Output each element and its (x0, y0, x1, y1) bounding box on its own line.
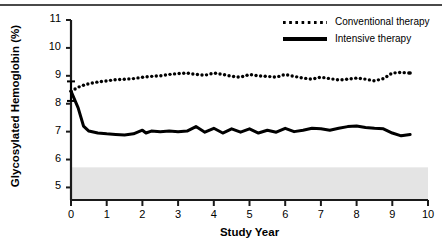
series-dot-conventional-therapy (254, 74, 257, 77)
series-dot-conventional-therapy (136, 76, 139, 79)
normal-range-band (71, 167, 428, 200)
series-dot-conventional-therapy (273, 75, 276, 78)
x-tick-label: 1 (97, 208, 117, 220)
series-dot-conventional-therapy (191, 72, 194, 75)
series-dot-conventional-therapy (127, 77, 130, 80)
series-dot-conventional-therapy (141, 75, 144, 78)
series-dot-conventional-therapy (73, 87, 76, 90)
series-dot-conventional-therapy (236, 75, 239, 78)
series-dot-conventional-therapy (118, 78, 121, 81)
series-dot-conventional-therapy (331, 77, 334, 80)
x-tick-label: 5 (240, 208, 260, 220)
series-dot-conventional-therapy (173, 72, 176, 75)
series-dot-conventional-therapy (209, 72, 212, 75)
series-dot-conventional-therapy (318, 76, 321, 79)
series-dot-conventional-therapy (91, 81, 94, 84)
series-dot-conventional-therapy (104, 79, 107, 82)
series-dot-conventional-therapy (286, 73, 289, 76)
series-dot-conventional-therapy (227, 74, 230, 77)
series-dot-conventional-therapy (259, 74, 262, 77)
series-dot-conventional-therapy (205, 73, 208, 76)
series-dot-conventional-therapy (300, 76, 303, 79)
series-dot-conventional-therapy (196, 73, 199, 76)
series-dot-conventional-therapy (177, 72, 180, 75)
series-dot-conventional-therapy (113, 78, 116, 81)
x-tick-label: 8 (347, 208, 367, 220)
series-dot-conventional-therapy (304, 77, 307, 80)
x-tick-label: 3 (168, 208, 188, 220)
series-dot-conventional-therapy (363, 77, 366, 80)
series-dot-conventional-therapy (86, 82, 89, 85)
series-dot-conventional-therapy (290, 74, 293, 77)
series-dot-conventional-therapy (408, 71, 411, 74)
series-dot-conventional-therapy (132, 77, 135, 80)
x-tick-label: 7 (311, 208, 331, 220)
series-dot-conventional-therapy (218, 72, 221, 75)
series-dot-conventional-therapy (245, 73, 248, 76)
series-dot-conventional-therapy (345, 78, 348, 81)
series-dot-conventional-therapy (403, 71, 406, 74)
series-dot-conventional-therapy (282, 73, 285, 76)
series-dot-conventional-therapy (200, 73, 203, 76)
series-dot-conventional-therapy (187, 72, 190, 75)
series-dot-conventional-therapy (393, 71, 396, 74)
y-tick-label: 6 (39, 152, 61, 164)
series-dot-conventional-therapy (295, 75, 298, 78)
series-dot-conventional-therapy (82, 84, 85, 87)
series-dot-conventional-therapy (350, 77, 353, 80)
x-tick-label: 6 (275, 208, 295, 220)
x-tick-label: 10 (418, 208, 438, 220)
series-dot-conventional-therapy (309, 77, 312, 80)
series-dot-conventional-therapy (95, 80, 98, 83)
series-dot-conventional-therapy (100, 80, 103, 83)
y-tick-label: 9 (39, 68, 61, 80)
series-dot-conventional-therapy (164, 73, 167, 76)
series-dot-conventional-therapy (381, 77, 384, 80)
series-dot-conventional-therapy (182, 72, 185, 75)
series-dot-conventional-therapy (223, 73, 226, 76)
series-dot-conventional-therapy (277, 75, 280, 78)
y-tick-label: 10 (39, 40, 61, 52)
series-dot-conventional-therapy (250, 73, 253, 76)
x-tick-label: 2 (132, 208, 152, 220)
series-dot-conventional-therapy (168, 73, 171, 76)
x-tick-label: 4 (204, 208, 224, 220)
series-dot-conventional-therapy (327, 77, 330, 80)
series-line-intensive-therapy (71, 91, 410, 136)
series-dot-conventional-therapy (77, 85, 80, 88)
series-dot-conventional-therapy (322, 76, 325, 79)
series-dot-conventional-therapy (145, 75, 148, 78)
series-dot-conventional-therapy (385, 75, 388, 78)
series-dot-conventional-therapy (313, 77, 316, 80)
series-dot-conventional-therapy (150, 75, 153, 78)
y-tick-label: 11 (39, 12, 61, 24)
series-dot-conventional-therapy (241, 75, 244, 78)
series-dot-conventional-therapy (389, 72, 392, 75)
chart-figure: Glycosylated Hemoglobin (%) Study Year C… (0, 0, 442, 247)
x-tick-label: 0 (61, 208, 81, 220)
series-dot-conventional-therapy (372, 79, 375, 82)
series-dot-conventional-therapy (377, 78, 380, 81)
series-dot-conventional-therapy (159, 74, 162, 77)
x-tick-label: 9 (382, 208, 402, 220)
y-tick-label: 8 (39, 96, 61, 108)
series-dot-conventional-therapy (359, 77, 362, 80)
series-dot-conventional-therapy (336, 78, 339, 81)
series-dot-conventional-therapy (232, 75, 235, 78)
series-dot-conventional-therapy (109, 79, 112, 82)
series-dot-conventional-therapy (264, 75, 267, 78)
series-dot-conventional-therapy (123, 77, 126, 80)
y-tick-label: 5 (39, 179, 61, 191)
series-dot-conventional-therapy (214, 72, 217, 75)
y-tick-label: 7 (39, 124, 61, 136)
series-dot-conventional-therapy (340, 78, 343, 81)
series-dot-conventional-therapy (398, 71, 401, 74)
series-dot-conventional-therapy (354, 76, 357, 79)
series-dot-conventional-therapy (268, 75, 271, 78)
series-dot-conventional-therapy (155, 74, 158, 77)
series-dot-conventional-therapy (368, 78, 371, 81)
